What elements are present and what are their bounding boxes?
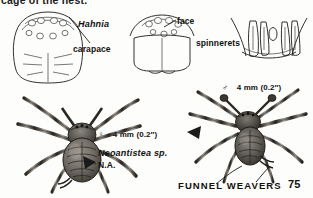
male-measurement: ♂ 4 mm (0.2″) xyxy=(222,84,281,92)
carapace-label: carapace xyxy=(73,45,111,54)
female-measurement-value: 4 mm (0.2″) xyxy=(113,130,158,139)
face-label: face xyxy=(177,17,194,26)
female-sex-symbol: ♀ xyxy=(98,130,104,139)
clipped-running-text: cage of the nest. xyxy=(1,0,87,6)
pointer-male-left xyxy=(185,125,203,141)
genus-label-hahnia: Hahnia xyxy=(78,20,109,29)
male-measurement-value: 4 mm (0.2″) xyxy=(237,83,282,92)
female-species-name: Neoantistea sp. xyxy=(98,149,168,158)
spinnerets-label: spinnerets xyxy=(196,39,240,48)
female-range: N.A. xyxy=(98,161,115,170)
pointer-female-abdomen xyxy=(82,155,98,171)
page-number: 75 xyxy=(288,179,301,190)
footer-title: FUNNEL WEAVERS xyxy=(178,181,282,191)
female-measurement: ♀ 4 mm (0.2″) xyxy=(98,131,157,139)
field-guide-page: cage of the nest. xyxy=(0,0,313,198)
female-spider-illustration xyxy=(16,88,142,194)
male-sex-symbol: ♂ xyxy=(222,83,228,92)
spinnerets-diagram xyxy=(228,12,310,68)
